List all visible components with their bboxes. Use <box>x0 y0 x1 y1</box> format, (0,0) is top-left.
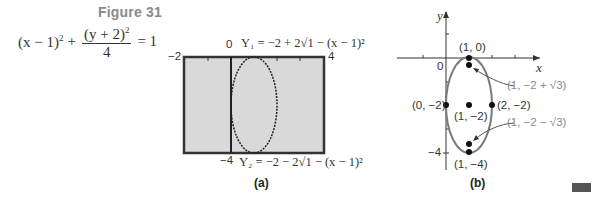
caption-b: (b) <box>470 176 485 190</box>
point-label-0-neg2: (0, −2) <box>412 99 446 111</box>
end-of-example-marker <box>572 183 591 192</box>
origin-label: 0 <box>437 60 443 72</box>
point-label-lower-focus: (1, −2 − √3) <box>507 116 566 128</box>
tick-neg4-label: −4 <box>428 146 441 158</box>
point-label-2-neg2: (2, −2) <box>497 99 531 111</box>
point-label-center: (1, −2) <box>454 110 488 122</box>
y-axis-label: y <box>437 8 443 24</box>
point-label-1-0: (1, 0) <box>459 41 486 53</box>
point-label-upper-focus: (1, −2 + √3) <box>507 79 566 91</box>
point-label-1-neg4: (1, −4) <box>454 158 488 170</box>
x-axis-label: x <box>536 60 542 76</box>
